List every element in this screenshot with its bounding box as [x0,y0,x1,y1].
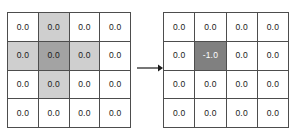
grid-cell: 0.0 [8,42,38,70]
grid-cell: 0.0 [227,99,257,127]
grid-cell: 0.0 [70,13,100,41]
grid-cell: 0.0 [164,71,194,99]
grid-cell: 0.0 [100,71,130,99]
grid-cell: 0.0 [39,13,69,41]
grid-cell: 0.0 [8,99,38,127]
after-grid: 0.00.00.00.00.0-1.00.00.00.00.00.00.00.0… [163,12,289,128]
grid-cell: 0.0 [70,42,100,70]
grid-cell: 0.0 [227,42,257,70]
grid-cell: 0.0 [100,99,130,127]
before-grid: 0.00.00.00.00.00.00.00.00.00.00.00.00.00… [7,12,131,128]
grid-cell: 0.0 [70,71,100,99]
grid-cell: 0.0 [164,13,194,41]
grid-cell: 0.0 [8,13,38,41]
grid-cell: 0.0 [100,42,130,70]
grid-cell: 0.0 [258,42,288,70]
grid-cell: 0.0 [164,99,194,127]
grid-cell: 0.0 [195,13,225,41]
grid-cell: 0.0 [195,99,225,127]
grid-cell: 0.0 [70,99,100,127]
grid-cell: 0.0 [164,42,194,70]
grid-cell: 0.0 [8,71,38,99]
grid-cell: 0.0 [227,71,257,99]
grid-cell: 0.0 [39,71,69,99]
grid-cell: 0.0 [39,42,69,70]
grid-cell: 0.0 [195,71,225,99]
grid-cell: -1.0 [195,42,225,70]
grid-cell: 0.0 [258,99,288,127]
grid-cell: 0.0 [258,71,288,99]
transformation-arrow-icon [136,60,164,76]
grid-cell: 0.0 [258,13,288,41]
grid-cell: 0.0 [100,13,130,41]
grid-cell: 0.0 [227,13,257,41]
grid-cell: 0.0 [39,99,69,127]
grid-transformation-figure: 0.00.00.00.00.00.00.00.00.00.00.00.00.00… [0,0,295,137]
